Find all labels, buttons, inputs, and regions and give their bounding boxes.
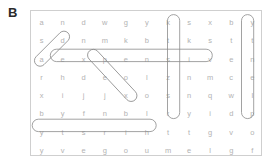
- grid-letter: o: [115, 142, 136, 160]
- grid-letter: d: [221, 105, 242, 123]
- grid-letter: s: [31, 32, 52, 50]
- grid-letter: t: [157, 124, 178, 142]
- grid-letter: b: [115, 105, 136, 123]
- grid-letter: n: [179, 69, 200, 87]
- grid-letter: l: [200, 142, 221, 160]
- word-search-figure: B andwgyksxbysdnmkbtksttaexpensivenrhdeo…: [0, 0, 273, 166]
- grid-letter: n: [179, 87, 200, 105]
- grid-letter: k: [115, 32, 136, 50]
- panel-label-b: B: [8, 6, 17, 19]
- grid-letter: h: [52, 69, 73, 87]
- grid-letter: p: [94, 51, 115, 69]
- grid-letter: e: [115, 51, 136, 69]
- grid-letter: k: [157, 14, 178, 32]
- grid-letter: z: [157, 69, 178, 87]
- grid-letter: m: [200, 69, 221, 87]
- grid-letter: y: [179, 105, 200, 123]
- grid-letter: i: [200, 105, 221, 123]
- grid-letter: n: [136, 51, 157, 69]
- grid-letter: r: [31, 69, 52, 87]
- grid-letter: e: [221, 51, 242, 69]
- word-search-puzzle-box: andwgyksxbysdnmkbtksttaexpensivenrhdeolz…: [30, 10, 262, 156]
- grid-letter: t: [221, 32, 242, 50]
- grid-letter: e: [179, 142, 200, 160]
- grid-row: byfnblryidp: [31, 105, 263, 123]
- grid-letter: f: [242, 142, 263, 160]
- grid-letter: g: [94, 142, 115, 160]
- grid-letter: t: [157, 32, 178, 50]
- grid-letter: u: [136, 142, 157, 160]
- grid-letter: m: [157, 142, 178, 160]
- grid-letter: y: [31, 142, 52, 160]
- grid-letter: o: [115, 69, 136, 87]
- grid-letter: t: [52, 124, 73, 142]
- grid-letter: w: [221, 87, 242, 105]
- grid-row: aexpensiven: [31, 51, 263, 69]
- grid-letter: y: [136, 14, 157, 32]
- grid-row: ytsrihttgvo: [31, 124, 263, 142]
- grid-row: xijjxosnqwl: [31, 87, 263, 105]
- grid-letter: g: [115, 14, 136, 32]
- grid-letter: x: [73, 51, 94, 69]
- grid-letter: j: [94, 87, 115, 105]
- grid-letter: g: [221, 142, 242, 160]
- grid-letter: d: [52, 32, 73, 50]
- grid-letter: y: [52, 105, 73, 123]
- grid-letter: s: [157, 87, 178, 105]
- grid-letter: e: [242, 69, 263, 87]
- grid-letter: x: [31, 87, 52, 105]
- grid-letter: e: [73, 142, 94, 160]
- grid-row: yvegoumelgf: [31, 142, 263, 160]
- grid-letter: t: [179, 124, 200, 142]
- grid-letter: w: [94, 14, 115, 32]
- grid-letter: s: [179, 14, 200, 32]
- grid-letter: o: [136, 87, 157, 105]
- grid-row: sdnmkbtkstt: [31, 32, 263, 50]
- grid-letter: g: [200, 124, 221, 142]
- grid-letter: c: [221, 69, 242, 87]
- grid-row: andwgyksxby: [31, 14, 263, 32]
- grid-letter: r: [94, 124, 115, 142]
- letter-grid: andwgyksxbysdnmkbtksttaexpensivenrhdeolz…: [31, 11, 263, 157]
- grid-letter: x: [200, 14, 221, 32]
- grid-letter: s: [200, 32, 221, 50]
- grid-letter: a: [31, 14, 52, 32]
- grid-letter: n: [94, 105, 115, 123]
- grid-letter: b: [221, 14, 242, 32]
- grid-letter: n: [73, 32, 94, 50]
- grid-letter: l: [136, 69, 157, 87]
- grid-letter: y: [31, 124, 52, 142]
- grid-letter: s: [157, 51, 178, 69]
- grid-letter: p: [242, 105, 263, 123]
- grid-letter: m: [94, 32, 115, 50]
- grid-letter: i: [179, 51, 200, 69]
- grid-letter: t: [242, 32, 263, 50]
- grid-letter: v: [221, 124, 242, 142]
- grid-letter: d: [73, 14, 94, 32]
- grid-letter: o: [242, 124, 263, 142]
- grid-letter: j: [73, 87, 94, 105]
- grid-letter: i: [52, 87, 73, 105]
- grid-letter: n: [52, 14, 73, 32]
- grid-row: rhdeolznmce: [31, 69, 263, 87]
- grid-letter: n: [242, 51, 263, 69]
- grid-letter: k: [179, 32, 200, 50]
- grid-letter: f: [73, 105, 94, 123]
- grid-letter: q: [200, 87, 221, 105]
- grid-letter: i: [115, 124, 136, 142]
- grid-letter: b: [136, 32, 157, 50]
- grid-letter: s: [73, 124, 94, 142]
- grid-letter: v: [52, 142, 73, 160]
- grid-letter: l: [242, 87, 263, 105]
- grid-letter: h: [136, 124, 157, 142]
- grid-letter: d: [73, 69, 94, 87]
